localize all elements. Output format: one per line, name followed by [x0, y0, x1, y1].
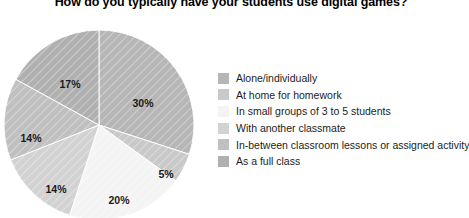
pie-chart: 30%5%20%14%14%17%	[0, 18, 210, 218]
legend-color-swatch	[218, 156, 229, 167]
pie-slice-value-label: 30%	[132, 97, 154, 109]
legend-color-swatch	[218, 123, 229, 134]
pie-chart-svg: 30%5%20%14%14%17%	[0, 18, 210, 218]
pie-slice-value-label: 20%	[108, 194, 130, 206]
legend-color-swatch	[218, 73, 229, 84]
legend-color-swatch	[218, 106, 229, 117]
page-title: How do you typically have your students …	[0, 0, 462, 9]
legend-item[interactable]: In small groups of 3 to 5 students	[218, 103, 458, 120]
legend-item-label: With another classmate	[236, 122, 346, 134]
legend-color-swatch	[218, 139, 229, 150]
legend-item[interactable]: As a full class	[218, 153, 458, 170]
pie-slice-value-label: 14%	[20, 132, 42, 144]
legend-color-swatch	[218, 89, 229, 100]
legend-item[interactable]: With another classmate	[218, 120, 458, 137]
legend-item-label: At home for homework	[236, 89, 342, 101]
legend-item[interactable]: In-between classroom lessons or assigned…	[218, 136, 458, 153]
pie-slice-value-label: 14%	[45, 183, 67, 195]
pie-slice-value-label: 17%	[59, 78, 81, 90]
legend: Alone/individuallyAt home for homeworkIn…	[218, 70, 458, 170]
legend-item[interactable]: Alone/individually	[218, 70, 458, 87]
legend-item-label: Alone/individually	[236, 72, 317, 84]
legend-item-label: As a full class	[236, 155, 300, 167]
legend-item-label: In small groups of 3 to 5 students	[236, 105, 391, 117]
legend-item[interactable]: At home for homework	[218, 87, 458, 104]
pie-slice-value-label: 5%	[158, 168, 174, 180]
legend-item-label: In-between classroom lessons or assigned…	[236, 139, 469, 151]
pie-hatch-overlay	[4, 30, 194, 218]
